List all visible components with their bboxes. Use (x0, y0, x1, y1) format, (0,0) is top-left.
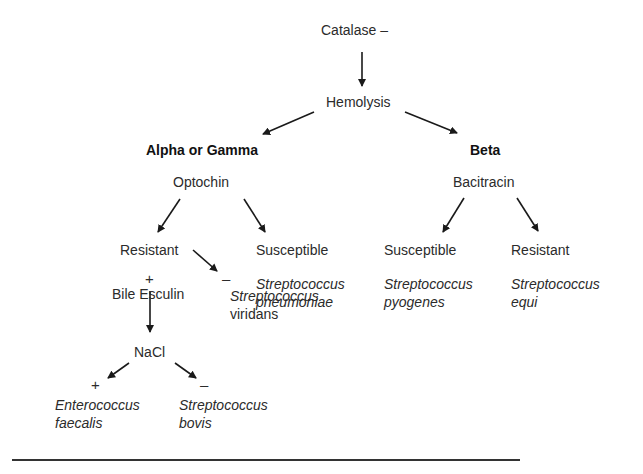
sign-nacl-positive: + (91, 376, 100, 393)
node-optochin: Optochin (173, 174, 229, 191)
arrow-hemolysis-alpha (263, 112, 314, 134)
arrow-bacitracin-resistant (517, 198, 538, 231)
organism-bovis-line1: Streptococcus (179, 397, 268, 414)
organism-pyogenes-line1: Streptococcus (384, 276, 473, 293)
arrow-nacl-negative (175, 363, 196, 378)
node-optochin-resistant: Resistant (120, 242, 178, 259)
arrow-bileesculin-negative (193, 250, 217, 271)
organism-bovis-line2: bovis (179, 415, 212, 432)
node-bacitracin: Bacitracin (453, 174, 514, 191)
arrow-optochin-resistant (158, 199, 180, 232)
arrow-hemolysis-beta (405, 112, 457, 133)
organism-faecalis-line1: Enterococcus (55, 397, 140, 414)
node-bacitracin-susceptible: Susceptible (384, 242, 456, 259)
organism-equi-line1: Streptococcus (511, 276, 600, 293)
arrow-optochin-susceptible (244, 199, 265, 232)
node-beta: Beta (470, 142, 500, 159)
sign-bileesculin-negative: – (222, 270, 230, 287)
arrow-bacitracin-susceptible (443, 198, 464, 232)
organism-equi-line2: equi (511, 294, 537, 311)
organism-viridans-line1: Streptococcus (230, 288, 319, 305)
bottom-divider (12, 459, 520, 461)
arrow-nacl-positive (108, 363, 129, 378)
organism-viridans-line2: viridans (230, 306, 278, 323)
organism-pyogenes-line2: pyogenes (384, 294, 445, 311)
node-alpha-gamma: Alpha or Gamma (146, 142, 258, 159)
sign-bileesculin-positive: + (145, 270, 154, 287)
node-catalase: Catalase – (321, 22, 388, 39)
node-optochin-susceptible: Susceptible (256, 242, 328, 259)
node-bacitracin-resistant: Resistant (511, 242, 569, 259)
organism-faecalis-line2: faecalis (55, 415, 102, 432)
node-nacl: NaCl (134, 344, 165, 361)
node-hemolysis: Hemolysis (326, 94, 391, 111)
sign-nacl-negative: – (200, 376, 208, 393)
node-bile-esculin: Bile Esculin (112, 286, 184, 303)
